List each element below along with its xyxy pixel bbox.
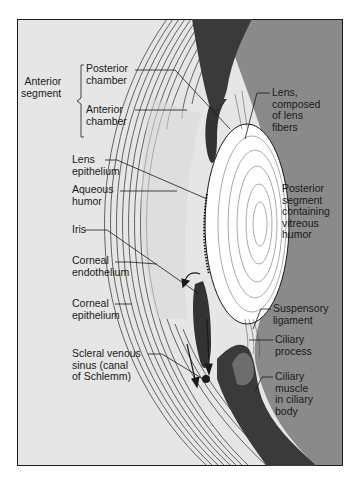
eye-anatomy-figure: Anterior segment Posterior chamber Anter… [17,19,343,466]
label-aqueous-humor: Aqueous humor [72,184,113,207]
lens [204,124,289,324]
label-lens: Lens, composed of lens fibers [272,87,320,133]
label-lens-epithelium: Lens epithelium [72,154,120,177]
label-anterior-chamber: Anterior chamber [86,104,127,127]
label-anterior-segment: Anterior segment [21,76,61,99]
label-ciliary-process: Ciliary process [275,334,312,357]
scleral-venous-sinus [202,375,210,383]
label-posterior-chamber: Posterior chamber [86,63,128,86]
anterior-chamber-area [141,99,202,319]
label-posterior-segment: Posterior segment containing vitreous hu… [282,183,330,241]
label-ciliary-muscle: Ciliary muscle in ciliary body [275,371,313,417]
label-corneal-endothelium: Corneal endothelium [72,255,129,278]
label-scleral-venous-sinus: Scleral venous sinus (canal of Schlemm) [72,348,141,383]
label-suspensory-ligament: Suspensory ligament [273,303,328,326]
anterior-segment-bracket [77,65,84,137]
label-iris: Iris [72,224,86,236]
label-corneal-epithelium: Corneal epithelium [72,298,120,321]
